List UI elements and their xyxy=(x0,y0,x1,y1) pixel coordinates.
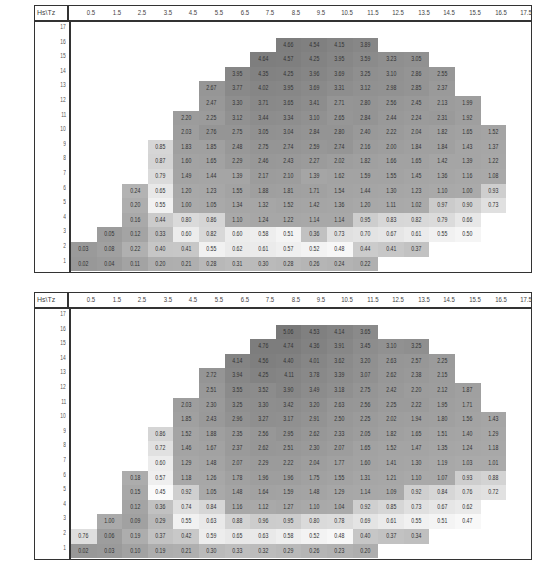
heatmap-cell: 0.37 xyxy=(378,529,404,544)
cell-value: 0.51 xyxy=(437,514,447,529)
cell-value: 2.98 xyxy=(386,81,396,96)
cell-value: 2.43 xyxy=(207,412,217,427)
cell-value: 0.02 xyxy=(79,544,89,559)
heatmap-cell: 2.07 xyxy=(225,456,251,471)
heatmap-cell: 3.94 xyxy=(225,368,251,383)
cell-value: 5.06 xyxy=(284,325,294,340)
cell-value: 1.43 xyxy=(488,412,498,427)
heatmap-cell: 1.85 xyxy=(199,140,225,155)
heatmap-cell: 0.63 xyxy=(250,529,276,544)
column-header: 9.5 xyxy=(312,6,331,20)
cell-value: 1.82 xyxy=(360,154,370,169)
cell-value: 2.56 xyxy=(360,398,370,413)
heatmap-cell: 2.22 xyxy=(404,398,430,413)
cell-value: 4.01 xyxy=(309,354,319,369)
cell-value: 1.14 xyxy=(309,213,319,228)
heatmap-cell: 0.55 xyxy=(173,514,199,529)
cell-value: 2.62 xyxy=(309,427,319,442)
heatmap-cell: 3.89 xyxy=(353,38,379,53)
heatmap-cell: 0.88 xyxy=(481,471,507,486)
heatmap-cell: 0.82 xyxy=(404,213,430,228)
cell-value: 1.94 xyxy=(412,412,422,427)
heatmap-cell: 1.42 xyxy=(301,198,327,213)
cell-value: 0.41 xyxy=(181,242,191,257)
heatmap-cell: 1.71 xyxy=(301,184,327,199)
heatmap-cell: 2.76 xyxy=(199,125,225,140)
cell-value: 1.65 xyxy=(412,154,422,169)
heatmap-cell: 1.01 xyxy=(481,456,507,471)
heatmap-cell: 0.87 xyxy=(148,154,174,169)
cell-value: 0.33 xyxy=(232,544,242,559)
cell-value: 2.20 xyxy=(412,383,422,398)
heatmap-cell: 0.19 xyxy=(148,544,174,559)
cell-value: 1.45 xyxy=(412,169,422,184)
cell-value: 0.52 xyxy=(309,529,319,544)
heatmap-cell: 2.25 xyxy=(199,111,225,126)
heatmap-cell: 1.03 xyxy=(455,456,481,471)
heatmap-cell: 0.22 xyxy=(353,257,379,272)
heatmap-cell: 1.14 xyxy=(301,213,327,228)
cell-value: 2.86 xyxy=(412,67,422,82)
heatmap-cell: 2.20 xyxy=(404,383,430,398)
cell-value: 0.72 xyxy=(488,485,498,500)
cell-value: 0.72 xyxy=(156,441,166,456)
cell-value: 2.38 xyxy=(412,368,422,383)
heatmap-cell: 2.74 xyxy=(276,140,302,155)
cell-value: 1.08 xyxy=(488,169,498,184)
row-header: 15 xyxy=(61,339,66,346)
cell-value: 1.66 xyxy=(386,154,396,169)
heatmap-cell: 3.78 xyxy=(301,368,327,383)
heatmap-cell: 0.72 xyxy=(148,441,174,456)
row-header-axis: 1716151413121110987654321 xyxy=(35,309,71,559)
heatmap-cell: 4.01 xyxy=(301,354,327,369)
heatmap-table-2: Hs\Tz 0.51.52.53.54.55.56.57.58.59.510.5… xyxy=(34,292,532,560)
cell-value: 0.80 xyxy=(181,213,191,228)
cell-value: 2.50 xyxy=(335,412,345,427)
heatmap-cell: 1.67 xyxy=(199,441,225,456)
cell-value: 1.52 xyxy=(386,441,396,456)
cell-value: 1.56 xyxy=(463,412,473,427)
cell-value: 1.10 xyxy=(232,213,242,228)
cell-value: 2.30 xyxy=(309,441,319,456)
cell-value: 2.55 xyxy=(437,67,447,82)
cell-value: 1.75 xyxy=(309,471,319,486)
heatmap-cell: 0.72 xyxy=(481,485,507,500)
column-header: 17.5 xyxy=(517,6,536,20)
row-header: 9 xyxy=(63,427,66,434)
cell-value: 0.58 xyxy=(284,529,294,544)
cell-value: 0.28 xyxy=(284,257,294,272)
heatmap-cell: 1.65 xyxy=(353,441,379,456)
cell-value: 3.05 xyxy=(258,125,268,140)
cell-value: 1.39 xyxy=(309,169,319,184)
heatmap-cell: 1.37 xyxy=(481,140,507,155)
cell-value: 3.17 xyxy=(284,412,294,427)
heatmap-cell: 2.98 xyxy=(378,81,404,96)
heatmap-cell: 1.40 xyxy=(455,427,481,442)
cell-value: 1.10 xyxy=(412,471,422,486)
heatmap-cell: 1.60 xyxy=(173,154,199,169)
cell-value: 4.74 xyxy=(284,339,294,354)
heatmap-cell: 1.10 xyxy=(404,471,430,486)
heatmap-cell: 4.11 xyxy=(276,368,302,383)
heatmap-cell: 2.84 xyxy=(301,125,327,140)
cell-value: 0.33 xyxy=(156,227,166,242)
cell-value: 1.46 xyxy=(181,441,191,456)
cell-value: 2.57 xyxy=(412,354,422,369)
cell-value: 1.77 xyxy=(335,456,345,471)
cell-value: 2.07 xyxy=(232,456,242,471)
heatmap-cell: 1.02 xyxy=(404,198,430,213)
heatmap-cell: 1.18 xyxy=(173,471,199,486)
heatmap-cell: 2.37 xyxy=(429,81,455,96)
cell-value: 0.79 xyxy=(156,169,166,184)
cell-value: 0.86 xyxy=(207,213,217,228)
heatmap-cell: 0.19 xyxy=(122,529,148,544)
row-header: 3 xyxy=(63,514,66,521)
cell-value: 2.03 xyxy=(181,125,191,140)
cell-value: 2.63 xyxy=(386,354,396,369)
cell-value: 0.48 xyxy=(335,242,345,257)
cell-value: 1.55 xyxy=(232,184,242,199)
heatmap-cell: 2.22 xyxy=(276,456,302,471)
cell-value: 4.56 xyxy=(258,354,268,369)
heatmap-cell: 1.81 xyxy=(276,184,302,199)
cell-value: 4.02 xyxy=(258,81,268,96)
